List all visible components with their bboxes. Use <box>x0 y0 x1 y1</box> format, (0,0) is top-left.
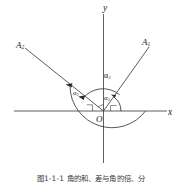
angle-mark-alpha1-icon <box>111 106 117 112</box>
ray-OA1 <box>104 47 150 111</box>
arc-alpha1 <box>114 97 121 111</box>
angle-mark-origin-icon <box>98 104 103 106</box>
figure-caption: 图1-1-1 角的和、差与角的倍、分 <box>0 174 182 183</box>
arrowhead-alpha3-icon <box>78 96 85 100</box>
figure-container: y x O A1 A2 α1 α2 α3 图1-1-1 角的和、差与角的倍、分 <box>0 0 182 189</box>
ray-OA2 <box>25 48 104 111</box>
coordinate-diagram <box>0 0 182 172</box>
angle-mark-alpha3-icon <box>87 105 93 111</box>
arrowhead-alpha2-icon <box>66 83 73 87</box>
